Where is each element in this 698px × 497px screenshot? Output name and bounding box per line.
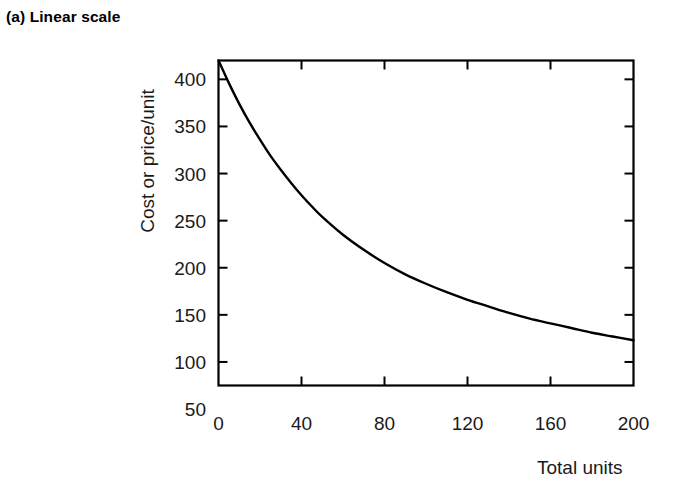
y-tick-label: 100 xyxy=(148,352,206,371)
y-tick-label: 150 xyxy=(148,305,206,324)
axes-frame xyxy=(219,61,634,386)
x-tick-label: 0 xyxy=(213,414,224,433)
data-curve xyxy=(219,61,634,341)
x-axis-title: Total units xyxy=(537,457,623,479)
y-tick-label: 200 xyxy=(148,258,206,277)
plot-area xyxy=(0,0,698,497)
figure-linear-scale: (a) Linear scale 40035030025020015010050… xyxy=(0,0,698,497)
x-tick-label: 80 xyxy=(374,414,395,433)
x-tick-label: 40 xyxy=(291,414,312,433)
x-tick-label: 160 xyxy=(535,414,567,433)
axis-ticks xyxy=(219,61,634,386)
y-tick-label: 50 xyxy=(148,400,206,419)
x-tick-label: 120 xyxy=(452,414,484,433)
y-axis-title: Cost or price/unit xyxy=(137,71,159,251)
x-tick-label: 200 xyxy=(618,414,650,433)
